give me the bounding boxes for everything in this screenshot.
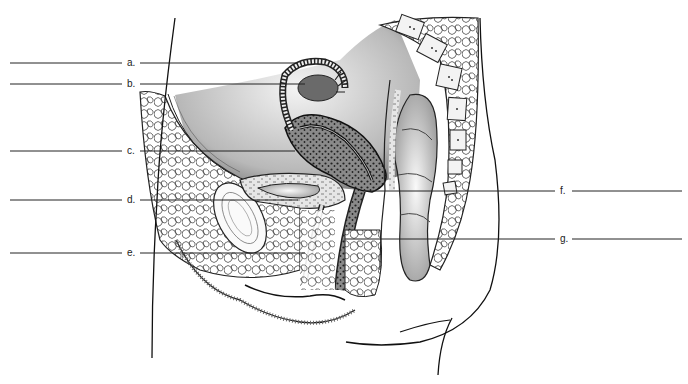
rectum: [395, 94, 438, 281]
pelvis-diagram: [0, 0, 688, 384]
label-e: e.: [127, 248, 135, 258]
label-c: c.: [127, 146, 135, 156]
label-b: b.: [127, 79, 135, 89]
label-lines-right: [345, 191, 682, 239]
label-a: a.: [127, 58, 135, 68]
label-d: d.: [127, 195, 135, 205]
label-g: g.: [560, 234, 568, 244]
ovary: [298, 75, 338, 101]
label-f: f.: [560, 186, 566, 196]
